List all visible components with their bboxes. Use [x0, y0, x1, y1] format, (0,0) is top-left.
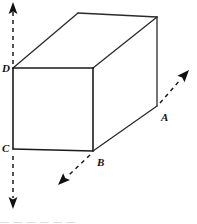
upright-axis-from-A-arrowhead-icon [177, 70, 189, 82]
vertex-label-B: B [96, 156, 104, 168]
bottom-clipped-caption: — — — — — — [0, 216, 197, 224]
upright-axis-from-A-line [160, 80, 180, 103]
downleft-axis-from-B-arrowhead-icon [58, 173, 70, 185]
geometry-figure: A B C D — — — — — — [0, 0, 197, 224]
vertex-label-A: A [160, 111, 168, 123]
edge-C-to-B [13, 149, 93, 151]
edge-backtopright-to-fronttopright [93, 17, 157, 68]
downleft-axis-from-B-line [69, 155, 90, 175]
cuboid-diagram-canvas: A B C D [0, 0, 197, 224]
axis-arrows [9, 2, 189, 209]
cuboid-edges [13, 13, 157, 151]
edge-backtopleft-to-backtopright [78, 13, 157, 17]
down-axis-from-C-arrowhead-icon [9, 197, 18, 209]
vertex-label-D: D [1, 62, 10, 74]
vertex-label-C: C [2, 142, 10, 154]
edge-B-to-A [93, 106, 157, 151]
edge-D-to-backtopleft [13, 13, 78, 68]
